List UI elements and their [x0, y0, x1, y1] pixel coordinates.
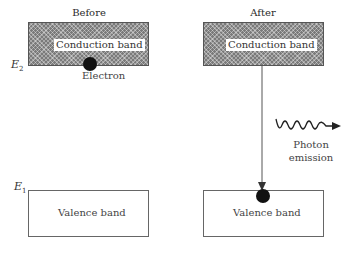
transition-arrow — [255, 66, 269, 194]
electron-valence-icon — [256, 189, 270, 203]
electron-label: Electron — [82, 69, 125, 82]
photon-emission-label: Photon emission — [286, 138, 336, 164]
before-title: Before — [49, 7, 129, 18]
energy-level-e2: E2 — [11, 58, 24, 73]
energy-level-e1: E1 — [14, 180, 27, 195]
after-title: After — [223, 7, 303, 18]
before-valence-band-label: Valence band — [58, 207, 126, 218]
photon-wave-icon — [274, 115, 346, 135]
after-conduction-band-label: Conduction band — [226, 39, 317, 51]
after-valence-band-label: Valence band — [233, 207, 301, 218]
before-conduction-band-label: Conduction band — [54, 39, 145, 51]
